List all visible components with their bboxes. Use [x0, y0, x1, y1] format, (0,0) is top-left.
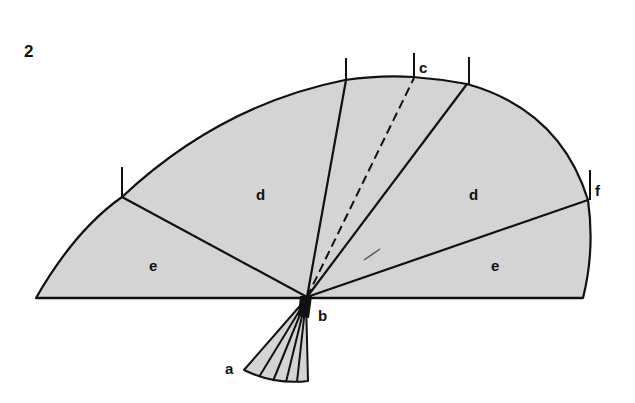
diagram-canvas: 2 c d d e e f b a	[0, 0, 635, 403]
label-a: a	[225, 360, 234, 377]
label-e-right: e	[491, 257, 499, 274]
pivot-b	[298, 296, 312, 318]
label-c: c	[419, 59, 427, 76]
label-d-left: d	[256, 186, 265, 203]
label-f: f	[595, 182, 601, 199]
figure-number: 2	[24, 42, 33, 61]
label-d-right: d	[469, 186, 478, 203]
label-b: b	[318, 307, 327, 324]
label-e-left: e	[149, 257, 157, 274]
